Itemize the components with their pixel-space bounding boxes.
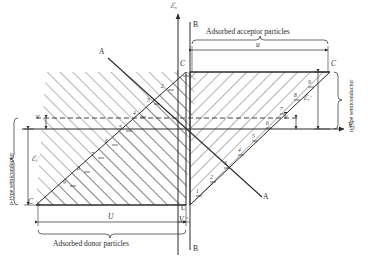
left-tick-number-6: 6 [105,139,108,145]
dimension-label-vbar: v [284,112,287,121]
dimension-label-v: v [36,113,39,121]
caption-acceptor: Adsorbed acceptor particles [206,28,290,36]
caption-donor: Adsorbed donor particles [53,240,129,248]
left-tick-number-1: 1 [176,70,179,76]
right-tick-number-8: 8 [294,93,297,99]
figure-canvas: ℰv VS B B A A C C C C Adsorbed acceptor … [0,0,368,263]
left-tick-number-5: 5 [119,125,122,131]
right-tick-number-3: 3 [224,161,227,167]
corner-label-C-bottom-left: C [28,198,33,206]
left-tick-number-9: 9 [63,180,66,186]
corner-label-C-top-right: C [331,60,336,68]
caption-p-type: p-type semiconductor [8,153,14,205]
section-label-B-bottom: B [193,245,198,253]
right-tick-number-6: 6 [266,121,269,127]
dimension-label-u: u [256,41,260,49]
left-tick-number-4: 4 [133,111,136,117]
vertical-axis-label: ℰv [170,2,177,11]
corner-label-C-bottom-right: C [181,204,186,212]
corner-label-C-top-left: C [180,60,185,68]
right-tick-number-2: 2 [210,175,213,181]
left-tick-number-2: 2 [161,84,164,90]
dimension-label-Ei-plus: ℰi+ [31,155,40,164]
dimension-label-U: U [108,213,113,221]
right-tick-number-4: 4 [238,148,241,154]
caption-n-type: n-type semiconductor [348,80,354,132]
right-tick-number-5: 5 [252,134,255,140]
right-tick-number-7: 7 [280,107,283,113]
dimension-label-Ei-minus: ℰi− [303,94,312,103]
left-tick-number-3: 3 [147,98,150,104]
section-label-A-top: A [99,48,104,56]
section-label-B-top: B [193,21,198,29]
left-tick-number-7: 7 [91,152,94,158]
right-tick-number-1: 1 [196,189,199,195]
section-label-A-bottom: A [263,193,268,201]
right-tick-number-9: 9 [308,80,311,86]
left-tick-number-8: 8 [77,166,80,172]
dimension-label-Vs-star: VS* [179,216,188,225]
